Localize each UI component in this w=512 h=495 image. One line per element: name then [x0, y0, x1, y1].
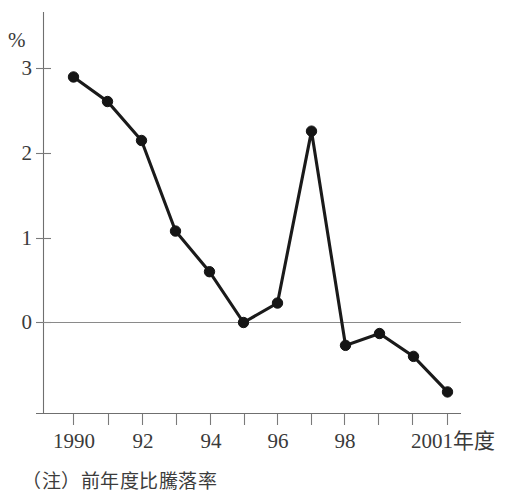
data-point — [442, 387, 452, 397]
data-point — [340, 340, 350, 350]
chart-container: % 3 2 1 0 1990 92 94 96 98 2001年度 （注）前年度… — [0, 0, 512, 495]
x-axis-label-98: 98 — [335, 431, 356, 452]
y-axis-label-2: 2 — [4, 143, 32, 164]
x-axis-label-94: 94 — [201, 431, 222, 452]
chart-note: （注）前年度比騰落率 — [22, 466, 217, 493]
x-tick-marks — [74, 414, 448, 425]
data-point — [102, 96, 112, 106]
y-axis-label-0: 0 — [4, 312, 32, 333]
data-point — [306, 126, 316, 136]
data-point — [170, 226, 180, 236]
x-axis-label-1990: 1990 — [53, 431, 95, 452]
y-axis-unit-label: % — [8, 30, 26, 51]
series-line-yoy-change — [74, 77, 448, 392]
data-point — [272, 298, 282, 308]
data-point — [408, 351, 418, 361]
y-axis-label-1: 1 — [4, 228, 32, 249]
x-axis-label-2001: 2001年度 — [411, 431, 495, 452]
x-axis-label-92: 92 — [133, 431, 154, 452]
data-point — [374, 328, 384, 338]
data-point — [136, 135, 146, 145]
data-point — [204, 267, 214, 277]
x-axis-label-96: 96 — [268, 431, 289, 452]
data-point — [68, 72, 78, 82]
y-axis-label-3: 3 — [4, 58, 32, 79]
data-point — [238, 317, 248, 327]
line-chart-plot — [0, 0, 512, 495]
